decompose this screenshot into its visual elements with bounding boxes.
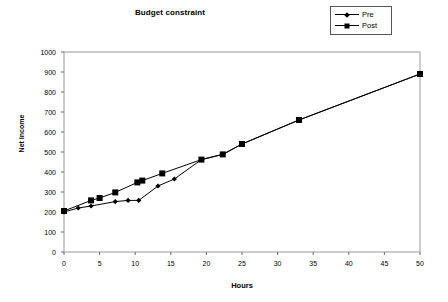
data-point-pre [88, 203, 93, 208]
data-point-post [159, 170, 165, 176]
data-point-post [296, 117, 302, 123]
data-point-pre [113, 199, 118, 204]
plot-area [0, 0, 448, 302]
data-point-pre [125, 198, 130, 203]
chart-container: Budget constraint Pre Post Net income Ho… [0, 0, 448, 302]
data-point-post [220, 151, 226, 157]
data-point-post [61, 208, 67, 214]
data-point-post [112, 189, 118, 195]
data-point-post [139, 178, 145, 184]
data-point-post [198, 157, 204, 163]
data-point-post [417, 71, 423, 77]
data-point-post [239, 141, 245, 147]
plot-frame [64, 52, 420, 252]
data-point-post [97, 195, 103, 201]
data-point-post [88, 197, 94, 203]
